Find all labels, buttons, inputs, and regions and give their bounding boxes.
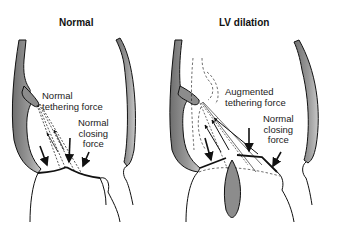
regurgitant-jet <box>224 160 240 218</box>
left-ventricular-wall <box>170 40 200 172</box>
lv-dilation-panel <box>170 40 318 222</box>
tethering-arrow <box>212 120 229 150</box>
closing-arrow <box>205 138 211 160</box>
dilation-tethering-label: Augmented tethering force <box>225 87 286 108</box>
right-ventricular-wall <box>294 40 318 163</box>
closing-arrow <box>40 146 47 165</box>
normal-panel <box>12 38 135 222</box>
left-atrial-wall <box>186 172 198 222</box>
closing-arrow <box>83 152 89 166</box>
right-atrial-wall <box>277 172 294 222</box>
panel-title-lv-dilation: LV dilation <box>219 17 269 28</box>
dilation-closing-label: Normal closing force <box>263 114 294 146</box>
mitral-leaflets <box>38 167 100 178</box>
panel-title-normal: Normal <box>59 17 93 28</box>
closing-arrow <box>273 152 281 166</box>
chordae-tendineae <box>37 104 82 174</box>
left-atrial-wall <box>30 173 38 222</box>
normal-tethering-label: Normal tethering force <box>42 91 103 112</box>
mitral-leaflets-tented <box>200 158 226 168</box>
right-ventricular-wall <box>116 38 135 166</box>
tethering-arrow <box>47 133 58 152</box>
normal-closing-label: Normal closing force <box>78 118 109 150</box>
right-atrial-appendage <box>124 166 134 205</box>
closing-arrow <box>69 138 70 162</box>
